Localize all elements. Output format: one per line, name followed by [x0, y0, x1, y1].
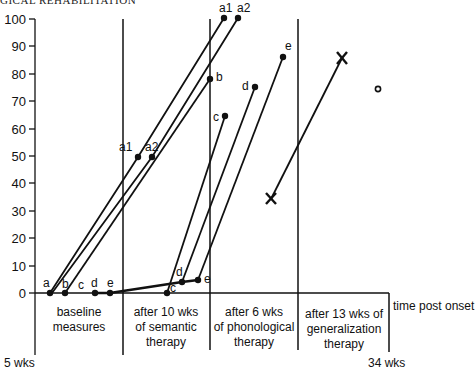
label-a2-mid: a2 — [145, 140, 159, 154]
phase-generalization-line3: therapy — [324, 337, 364, 351]
label-a: a — [43, 276, 50, 290]
label-d-phonological: d — [242, 79, 249, 93]
phase-generalization-line1: after 13 wks of — [305, 307, 384, 321]
y-tick-40: 40 — [12, 176, 26, 191]
point-a2-top — [235, 15, 241, 21]
y-tick-50: 50 — [12, 149, 26, 164]
phase-phonological-line2: of phonological — [214, 320, 295, 334]
y-tick-20: 20 — [12, 231, 26, 246]
label-e-baseline: e — [107, 276, 114, 290]
x-axis-label: time post onset — [393, 299, 475, 313]
label-e-phonological: e — [285, 39, 292, 53]
label-c-semantic: c — [170, 281, 176, 295]
label-d-semantic: d — [176, 265, 183, 279]
point-c-phonological — [222, 113, 228, 119]
time-end-label: 34 wks — [368, 356, 405, 370]
y-tick-80: 80 — [12, 67, 26, 82]
label-d-baseline: d — [91, 276, 98, 290]
point-e-baseline — [107, 290, 113, 296]
label-e-semantic: e — [204, 272, 211, 286]
point-o-generalization — [375, 86, 380, 91]
label-a1-top: a1 — [219, 1, 233, 15]
point-e-semantic — [195, 277, 201, 283]
y-tick-0: 0 — [19, 286, 26, 301]
phase-generalization-line2: generalization — [307, 322, 382, 336]
y-tick-30: 30 — [12, 204, 26, 219]
phase-semantic-line1: after 10 wks — [134, 305, 199, 319]
time-start-label: 5 wks — [4, 356, 35, 370]
series-x-line — [271, 58, 342, 199]
phase-labels: baseline measures after 10 wks of semant… — [53, 305, 384, 351]
point-a1-mid — [135, 154, 141, 160]
label-b-semantic: b — [216, 70, 223, 84]
phase-semantic-line2: of semantic — [135, 320, 196, 334]
label-a2-top: a2 — [237, 1, 251, 15]
point-a-baseline — [47, 290, 53, 296]
label-c-phonological: c — [213, 110, 219, 124]
point-a1-top — [221, 15, 227, 21]
therapy-outcome-chart: 100 90 80 70 60 50 40 30 20 10 0 baselin… — [0, 0, 476, 371]
point-e-phonological — [280, 54, 286, 60]
y-axis — [29, 19, 35, 355]
phase-phonological-line1: after 6 wks — [225, 305, 283, 319]
series-b-line — [65, 79, 210, 293]
phase-phonological-line3: therapy — [234, 335, 274, 349]
y-tick-60: 60 — [12, 122, 26, 137]
phase-baseline-line1: baseline — [57, 305, 102, 319]
y-tick-70: 70 — [12, 94, 26, 109]
phase-semantic-line3: therapy — [146, 335, 186, 349]
label-a1-mid: a1 — [119, 140, 133, 154]
y-tick-90: 90 — [12, 39, 26, 54]
point-d-phonological — [252, 84, 258, 90]
label-c-baseline: c — [78, 278, 84, 292]
y-tick-100: 100 — [4, 12, 26, 27]
y-tick-10: 10 — [12, 259, 26, 274]
point-d-semantic — [179, 279, 185, 285]
phase-baseline-line2: measures — [53, 320, 106, 334]
y-tick-labels: 100 90 80 70 60 50 40 30 20 10 0 — [4, 12, 26, 301]
point-labels: a b c d e a1 a2 a1 a2 b c c d d e e — [43, 1, 292, 295]
point-d-baseline — [92, 290, 98, 296]
label-b: b — [62, 277, 69, 291]
point-b-semantic — [207, 76, 213, 82]
point-a2-mid — [149, 154, 155, 160]
